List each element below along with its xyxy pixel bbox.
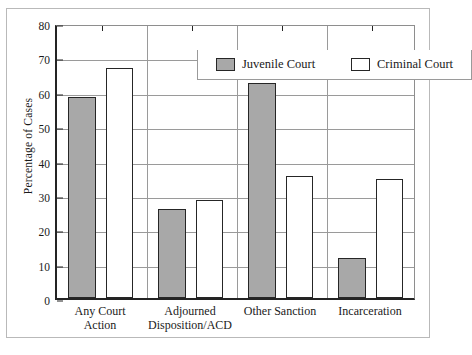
legend-item-juvenile-court: Juvenile Court xyxy=(216,57,315,72)
y-axis-title: Percentage of Cases xyxy=(22,66,34,226)
x-tick-mark xyxy=(372,26,373,31)
x-category-label: Incarceration xyxy=(313,304,427,318)
y-tick-label: 40 xyxy=(39,158,58,170)
y-tick-label: 50 xyxy=(39,123,58,135)
bar-juvenile xyxy=(338,258,366,298)
y-tick-label: 20 xyxy=(39,226,58,238)
bar-criminal xyxy=(376,179,404,298)
legend-swatch-icon-criminal xyxy=(351,58,370,71)
bar-juvenile xyxy=(248,83,276,298)
bar-criminal xyxy=(106,68,134,298)
bar-criminal xyxy=(196,200,224,298)
bar-group xyxy=(57,26,147,298)
y-tick-label: 60 xyxy=(39,89,58,101)
x-tick-mark xyxy=(192,26,193,31)
x-category-label-line: Incarceration xyxy=(313,304,427,318)
legend-label-criminal: Criminal Court xyxy=(377,57,453,72)
legend-label-juvenile: Juvenile Court xyxy=(242,57,315,72)
chart-legend: Juvenile Court Criminal Court xyxy=(197,50,472,80)
y-tick-mark xyxy=(57,301,63,302)
y-tick-label: 80 xyxy=(39,20,58,32)
x-tick-mark xyxy=(102,26,103,31)
bar-juvenile xyxy=(68,97,96,298)
plot-area: 01020304050607080 Juvenile Court Crimina… xyxy=(55,25,415,300)
y-tick-label: 10 xyxy=(39,261,58,273)
y-tick-label: 30 xyxy=(39,192,58,204)
x-tick-mark xyxy=(282,26,283,31)
legend-item-criminal-court: Criminal Court xyxy=(351,57,453,72)
y-tick-label: 70 xyxy=(39,54,58,66)
x-category-label-line: Disposition/ACD xyxy=(133,318,247,332)
bar-juvenile xyxy=(158,209,186,298)
bar-criminal xyxy=(286,176,314,298)
legend-swatch-icon-juvenile xyxy=(216,58,235,71)
